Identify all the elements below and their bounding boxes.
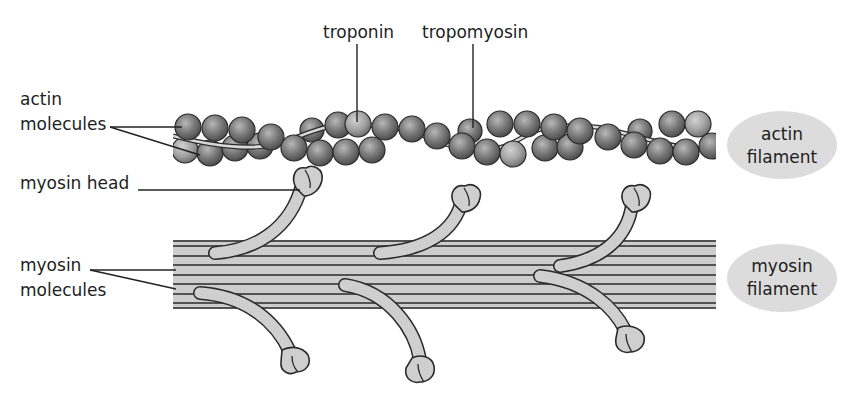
label-myosin-molecules-line1: myosin <box>20 255 81 275</box>
oval-actin-filament: actin filament <box>727 111 837 179</box>
actin-filament <box>172 111 725 167</box>
label-actin-molecules-line1: actin <box>20 89 62 109</box>
oval-myosin-filament-line1: myosin <box>751 256 812 276</box>
oval-myosin-filament-line2: filament <box>747 279 818 299</box>
sliding-filament-diagram: troponin tropomyosin actin molecules myo… <box>0 0 854 394</box>
oval-myosin-filament: myosin filament <box>727 244 837 312</box>
oval-actin-filament-line2: filament <box>747 147 818 167</box>
label-actin-molecules-line2: molecules <box>20 114 106 134</box>
oval-actin-filament-line1: actin <box>761 124 803 144</box>
label-myosin-molecules-line2: molecules <box>20 280 106 300</box>
label-myosin-head: myosin head <box>20 173 129 193</box>
label-troponin: troponin <box>323 22 394 42</box>
label-tropomyosin: tropomyosin <box>422 22 528 42</box>
